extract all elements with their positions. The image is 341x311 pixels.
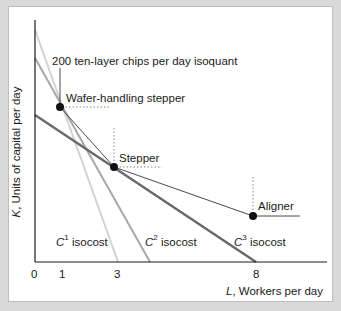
c1-sup: 1 [64,233,68,242]
x-rest: , Workers per day [232,285,323,297]
c2-sup: 2 [153,233,157,242]
x-axis-label: L, Workers per day [226,285,323,297]
x-tick-8: 8 [253,268,259,280]
aligner-label: Aligner [258,200,294,212]
y-rest: , Units of capital per day [10,86,22,209]
c2-isocost-label: C2 isocost [145,234,197,248]
c1-isocost-label: C1 isocost [56,234,108,248]
wafer-point [56,103,64,111]
aligner-point [249,212,257,220]
c2-word: isocost [161,236,197,248]
y-var: K [10,210,22,218]
stepper-label: Stepper [119,152,159,164]
c3-word: isocost [250,236,286,248]
x-tick-0: 0 [31,268,37,280]
wafer-label: Wafer-handling stepper [66,92,185,104]
chart-plot [0,0,341,311]
c1-word: isocost [72,236,108,248]
c3-isocost-label: C3 isocost [234,234,286,248]
c3-sup: 3 [242,233,246,242]
stepper-point [110,163,118,171]
y-axis-label: K, Units of capital per day [10,32,22,272]
isoquant-line [60,68,300,216]
isoquant-label: 200 ten-layer chips per day isoquant [52,55,237,67]
x-tick-1: 1 [59,268,65,280]
x-tick-3: 3 [114,268,120,280]
